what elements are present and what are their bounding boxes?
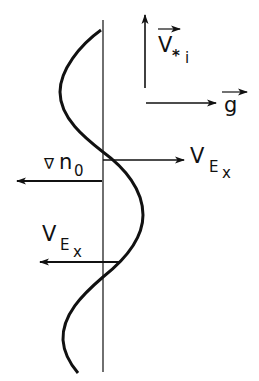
g-label: g xyxy=(224,95,237,116)
vex-lower-label-sub-x: x xyxy=(73,245,82,260)
grad-n0-label-sub: 0 xyxy=(74,164,84,179)
v-star-i-label-main: V xyxy=(158,35,172,56)
vex-lower-label-main: V xyxy=(42,224,56,245)
v-star-i-label-sub: i xyxy=(185,51,189,66)
diagram-svg xyxy=(0,0,259,381)
perturbation-wave-curve xyxy=(60,30,143,373)
vex-lower-label-sub-e: E xyxy=(60,238,69,253)
vex-upper-label-main: V xyxy=(190,146,204,167)
rayleigh-taylor-diagram: V * i g V E x ∇ n 0 V E x xyxy=(0,0,259,381)
v-star-i-label-star: * xyxy=(172,49,180,64)
grad-n0-label-main: n xyxy=(59,152,72,173)
vex-upper-label-sub-x: x xyxy=(222,166,231,181)
vex-upper-label-sub-e: E xyxy=(209,160,218,175)
grad-n0-label-nabla: ∇ xyxy=(44,157,54,172)
